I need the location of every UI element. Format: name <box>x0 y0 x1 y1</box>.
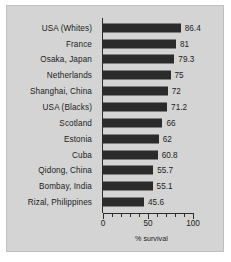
category-label: USA (Blacks) <box>43 103 92 112</box>
bar-value-label: 71.2 <box>171 103 187 112</box>
x-tick <box>121 213 122 217</box>
bar <box>103 103 167 112</box>
category-label: Scotland <box>59 118 92 127</box>
bar <box>103 198 144 207</box>
x-axis-title: % survival <box>135 234 168 243</box>
x-tick <box>139 213 140 217</box>
x-tick <box>103 213 104 219</box>
axis-spine <box>102 18 103 213</box>
bar-value-label: 81 <box>180 39 189 48</box>
bar <box>103 55 174 64</box>
x-tick <box>184 213 185 217</box>
x-tick <box>112 213 113 217</box>
bar <box>103 87 168 96</box>
bar <box>103 71 171 80</box>
bar <box>103 150 158 159</box>
category-label: Estonia <box>64 134 92 143</box>
bar-value-label: 60.8 <box>162 150 178 159</box>
chart-figure: USA (Whites)86.4France81Osaka, Japan79.3… <box>0 0 231 262</box>
bar <box>103 134 159 143</box>
bar-value-label: 75 <box>175 71 184 80</box>
bar-value-label: 45.6 <box>148 198 164 207</box>
bar-value-label: 79.3 <box>178 55 194 64</box>
category-label: France <box>66 39 92 48</box>
x-tick <box>130 213 131 217</box>
bar-value-label: 55.7 <box>157 166 173 175</box>
bar-row: Shanghai, China72 <box>7 83 223 99</box>
x-tick-label: 100 <box>186 219 200 228</box>
bar-row: USA (Blacks)71.2 <box>7 99 223 115</box>
chart-panel: USA (Whites)86.4France81Osaka, Japan79.3… <box>6 5 224 252</box>
category-label: Osaka, Japan <box>40 55 92 64</box>
x-tick-label: 50 <box>143 219 152 228</box>
category-label: Rizal, Philippines <box>28 198 92 207</box>
category-label: Netherlands <box>47 71 92 80</box>
bar <box>103 166 153 175</box>
bar <box>103 23 181 32</box>
category-label: Cuba <box>72 150 92 159</box>
category-label: Shanghai, China <box>30 87 92 96</box>
bar-row: France81 <box>7 36 223 52</box>
x-tick <box>193 213 194 219</box>
bar <box>103 39 176 48</box>
x-tick <box>166 213 167 217</box>
x-tick-label: 0 <box>101 219 106 228</box>
category-label: Bombay, India <box>39 182 92 191</box>
bar <box>103 118 162 127</box>
bar-value-label: 62 <box>163 134 172 143</box>
bar-row: Netherlands75 <box>7 68 223 84</box>
bar-value-label: 66 <box>166 118 175 127</box>
bar <box>103 182 153 191</box>
bar-row: Qidong, China55.7 <box>7 163 223 179</box>
x-tick <box>148 213 149 219</box>
bar-row: Scotland66 <box>7 115 223 131</box>
bar-value-label: 55.1 <box>157 182 173 191</box>
bar-row: USA (Whites)86.4 <box>7 20 223 36</box>
bar-row: Osaka, Japan79.3 <box>7 52 223 68</box>
x-tick <box>157 213 158 217</box>
bar-row: Estonia62 <box>7 131 223 147</box>
bar-row: Cuba60.8 <box>7 147 223 163</box>
bar-value-label: 72 <box>172 87 181 96</box>
bar-row: Rizal, Philippines45.6 <box>7 194 223 210</box>
bar-value-label: 86.4 <box>185 23 201 32</box>
bar-row: Bombay, India55.1 <box>7 179 223 195</box>
x-tick <box>175 213 176 217</box>
category-label: USA (Whites) <box>42 23 92 32</box>
category-label: Qidong, China <box>38 166 92 175</box>
